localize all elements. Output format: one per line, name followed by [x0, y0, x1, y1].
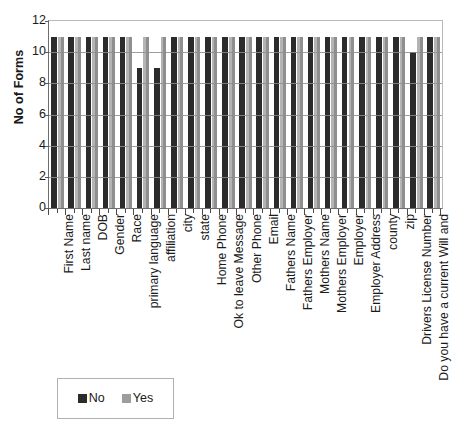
x-tick-mark-minor [415, 209, 416, 213]
x-tick-mark-minor [330, 209, 331, 213]
bar-yes [109, 37, 115, 208]
bar-yes [417, 37, 423, 208]
x-tick-mark-minor [125, 209, 126, 213]
bar-no [68, 37, 74, 208]
bar-yes [331, 37, 337, 208]
bar-yes [314, 37, 320, 208]
x-tick-mark-minor [91, 209, 92, 213]
bar-no [410, 52, 416, 208]
x-tick-mark-minor [313, 209, 314, 213]
bar-no [51, 37, 57, 208]
bar-no [171, 37, 177, 208]
legend-item-yes: Yes [122, 392, 153, 405]
x-tick-label: Do you have a current Will and [437, 214, 452, 381]
bar-yes [195, 37, 201, 208]
bar-yes [400, 37, 406, 208]
grid-line [49, 115, 442, 116]
bar-no [86, 37, 92, 208]
bar-yes [58, 37, 64, 208]
legend-swatch-no [78, 394, 87, 403]
bar-yes [143, 37, 149, 208]
legend-swatch-yes [122, 394, 131, 403]
bar-yes [75, 37, 81, 208]
plot-area [48, 20, 443, 209]
x-tick-label: county [386, 214, 401, 250]
bar-no [137, 68, 143, 208]
x-tick-mark-minor [176, 209, 177, 213]
x-tick-label: state [198, 214, 213, 240]
legend-label-no: No [89, 392, 105, 405]
bar-no [342, 37, 348, 208]
y-tick-mark [45, 52, 49, 53]
bar-yes [280, 37, 286, 208]
chart-legend: No Yes [57, 378, 174, 419]
x-tick-label: Gender [113, 214, 128, 255]
y-tick-mark [45, 115, 49, 116]
x-tick-label: Mothers Name [318, 214, 333, 294]
x-tick-mark-minor [262, 209, 263, 213]
bar-no [325, 37, 331, 208]
x-tick-mark-minor [57, 209, 58, 213]
grid-line [49, 83, 442, 84]
bar-yes [212, 37, 218, 208]
x-tick-mark-minor [398, 209, 399, 213]
bar-no [256, 37, 262, 208]
bar-chart: No of Forms 024681012 First NameLast nam… [0, 0, 464, 428]
x-tick-mark-minor [296, 209, 297, 213]
x-tick-label: Last name [79, 214, 94, 271]
bar-no [154, 68, 160, 208]
bar-yes [434, 37, 440, 208]
y-tick-label: 6 [20, 107, 46, 121]
bar-no [359, 37, 365, 208]
x-tick-mark-minor [142, 209, 143, 213]
bar-yes [229, 37, 235, 208]
x-tick-mark-minor [245, 209, 246, 213]
x-tick-mark-minor [364, 209, 365, 213]
bar-yes [349, 37, 355, 208]
x-tick-label: primary language [147, 214, 162, 308]
x-tick-label: Email [267, 214, 282, 244]
y-axis-tick-labels: 024681012 [20, 14, 46, 208]
y-tick-label: 8 [20, 75, 46, 89]
legend-item-no: No [78, 392, 105, 405]
bar-yes [178, 37, 184, 208]
x-tick-mark-minor [227, 209, 228, 213]
x-tick-mark-minor [108, 209, 109, 213]
bar-no [393, 37, 399, 208]
grid-line [49, 52, 442, 53]
y-tick-mark [45, 146, 49, 147]
bar-no [188, 37, 194, 208]
x-tick-label: Employer [352, 214, 367, 265]
bar-no [120, 37, 126, 208]
bar-no [103, 37, 109, 208]
y-tick-mark [45, 83, 49, 84]
y-tick-mark [45, 21, 49, 22]
x-tick-label: affiliation [164, 214, 179, 262]
bar-no [205, 37, 211, 208]
x-tick-label: Race [130, 214, 145, 242]
x-tick-label: Drivers License Number [420, 214, 435, 345]
y-tick-label: 10 [20, 44, 46, 58]
x-tick-mark-minor [381, 209, 382, 213]
x-tick-label: Fathers Employer [301, 214, 316, 310]
x-tick-label: Ok to leave Message [232, 214, 247, 328]
x-tick-label: Home Phone [215, 214, 230, 285]
x-tick-mark-minor [159, 209, 160, 213]
bar-yes [366, 37, 372, 208]
bar-yes [246, 37, 252, 208]
bar-no [291, 37, 297, 208]
bar-yes [161, 37, 167, 208]
x-tick-label: city [181, 214, 196, 232]
bar-no [427, 37, 433, 208]
bar-no [239, 37, 245, 208]
x-tick-label: DOB [96, 214, 111, 240]
bar-yes [383, 37, 389, 208]
y-tick-label: 12 [20, 13, 46, 27]
bar-no [376, 37, 382, 208]
bar-yes [126, 37, 132, 208]
y-tick-label: 2 [20, 169, 46, 183]
x-tick-mark-minor [347, 209, 348, 213]
x-tick-label: Fathers Name [284, 214, 299, 291]
x-tick-label: Mothers Employer [335, 214, 350, 313]
legend-label-yes: Yes [133, 392, 153, 405]
